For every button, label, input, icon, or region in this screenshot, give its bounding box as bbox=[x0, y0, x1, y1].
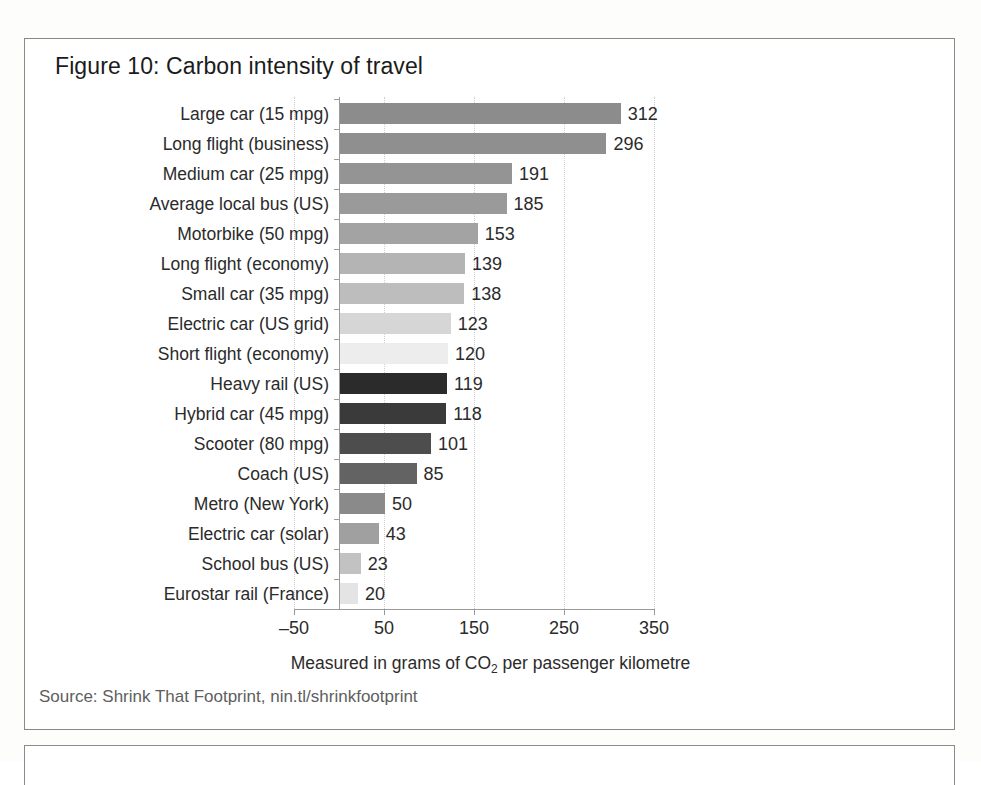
bar bbox=[340, 103, 621, 124]
bar bbox=[340, 193, 507, 214]
y-axis-tick bbox=[334, 129, 339, 130]
y-axis-tick bbox=[334, 429, 339, 430]
bar-row: Large car (15 mpg)312 bbox=[294, 99, 854, 129]
bar bbox=[340, 463, 417, 484]
bar bbox=[340, 403, 446, 424]
bar-row: Electric car (solar)43 bbox=[294, 519, 854, 549]
bar bbox=[340, 223, 478, 244]
bar-row: Short flight (economy)120 bbox=[294, 339, 854, 369]
bar-value-label: 101 bbox=[438, 429, 468, 459]
category-label: Hybrid car (45 mpg) bbox=[69, 399, 329, 429]
category-label: Electric car (US grid) bbox=[69, 309, 329, 339]
bar bbox=[340, 373, 447, 394]
bar-value-label: 123 bbox=[458, 309, 488, 339]
category-label: Eurostar rail (France) bbox=[69, 579, 329, 609]
x-axis-tick bbox=[384, 609, 385, 615]
bar bbox=[340, 493, 385, 514]
y-axis-tick bbox=[334, 189, 339, 190]
axis-caption-subscript: 2 bbox=[491, 662, 498, 676]
bar-value-label: 139 bbox=[472, 249, 502, 279]
bar-value-label: 23 bbox=[368, 549, 388, 579]
bar-row: Electric car (US grid)123 bbox=[294, 309, 854, 339]
x-axis-tick-label: 150 bbox=[459, 618, 489, 639]
bar-value-label: 296 bbox=[613, 129, 643, 159]
bar-row: Medium car (25 mpg)191 bbox=[294, 159, 854, 189]
bar-row: Long flight (economy)139 bbox=[294, 249, 854, 279]
bar-value-label: 20 bbox=[365, 579, 385, 609]
y-axis-tick bbox=[334, 519, 339, 520]
bar-row: Long flight (business)296 bbox=[294, 129, 854, 159]
x-axis-tick bbox=[294, 609, 295, 615]
category-label: Short flight (economy) bbox=[69, 339, 329, 369]
bar-value-label: 50 bbox=[392, 489, 412, 519]
y-axis-tick bbox=[334, 99, 339, 100]
bar-value-label: 43 bbox=[386, 519, 406, 549]
x-axis-tick-label: –50 bbox=[279, 618, 309, 639]
y-axis-tick bbox=[334, 159, 339, 160]
category-label: Small car (35 mpg) bbox=[69, 279, 329, 309]
bar-row: Coach (US)85 bbox=[294, 459, 854, 489]
bar bbox=[340, 583, 358, 604]
bar-value-label: 312 bbox=[628, 99, 658, 129]
bar-value-label: 191 bbox=[519, 159, 549, 189]
secondary-panel bbox=[24, 745, 955, 785]
y-axis-tick bbox=[334, 279, 339, 280]
category-label: Motorbike (50 mpg) bbox=[69, 219, 329, 249]
category-label: Electric car (solar) bbox=[69, 519, 329, 549]
plot-area: –5050150250350Large car (15 mpg)312Long … bbox=[294, 97, 884, 617]
x-axis-tick bbox=[564, 609, 565, 615]
bar-row: Heavy rail (US)119 bbox=[294, 369, 854, 399]
bar-value-label: 85 bbox=[424, 459, 444, 489]
bar-value-label: 118 bbox=[453, 399, 482, 429]
y-axis-tick bbox=[334, 309, 339, 310]
bar bbox=[340, 133, 606, 154]
bar-value-label: 138 bbox=[471, 279, 501, 309]
x-axis-tick bbox=[654, 609, 655, 615]
x-axis-tick bbox=[474, 609, 475, 615]
y-axis-tick bbox=[334, 219, 339, 220]
bar-value-label: 185 bbox=[514, 189, 544, 219]
category-label: Long flight (economy) bbox=[69, 249, 329, 279]
category-label: Scooter (80 mpg) bbox=[69, 429, 329, 459]
bar-value-label: 153 bbox=[485, 219, 515, 249]
figure-panel: Figure 10: Carbon intensity of travel –5… bbox=[24, 38, 955, 730]
bar-row: Eurostar rail (France)20 bbox=[294, 579, 854, 609]
axis-caption-prefix: Measured in grams of CO bbox=[291, 653, 491, 673]
bar bbox=[340, 523, 379, 544]
bar bbox=[340, 433, 431, 454]
bar-row: Motorbike (50 mpg)153 bbox=[294, 219, 854, 249]
bar-row: Metro (New York)50 bbox=[294, 489, 854, 519]
category-label: Medium car (25 mpg) bbox=[69, 159, 329, 189]
bar bbox=[340, 163, 512, 184]
bar-chart: –5050150250350Large car (15 mpg)312Long … bbox=[25, 97, 956, 677]
bar-value-label: 120 bbox=[455, 339, 485, 369]
category-label: Long flight (business) bbox=[69, 129, 329, 159]
y-axis-tick bbox=[334, 399, 339, 400]
category-label: Large car (15 mpg) bbox=[69, 99, 329, 129]
bar bbox=[340, 253, 465, 274]
bar-value-label: 119 bbox=[454, 369, 483, 399]
x-axis-caption: Measured in grams of CO2 per passenger k… bbox=[25, 653, 956, 674]
x-axis-tick-label: 250 bbox=[549, 618, 579, 639]
bar bbox=[340, 343, 448, 364]
x-axis-tick-label: 350 bbox=[639, 618, 669, 639]
source-note: Source: Shrink That Footprint, nin.tl/sh… bbox=[39, 687, 418, 707]
category-label: Coach (US) bbox=[69, 459, 329, 489]
y-axis-tick bbox=[334, 549, 339, 550]
bar-row: Small car (35 mpg)138 bbox=[294, 279, 854, 309]
bar bbox=[340, 313, 451, 334]
bar bbox=[340, 283, 464, 304]
y-axis-tick bbox=[334, 459, 339, 460]
y-axis-tick bbox=[334, 339, 339, 340]
category-label: Average local bus (US) bbox=[69, 189, 329, 219]
category-label: Heavy rail (US) bbox=[69, 369, 329, 399]
x-axis-tick-label: 50 bbox=[374, 618, 394, 639]
y-axis-tick bbox=[334, 369, 339, 370]
category-label: Metro (New York) bbox=[69, 489, 329, 519]
bar-row: Average local bus (US)185 bbox=[294, 189, 854, 219]
bar-row: Hybrid car (45 mpg)118 bbox=[294, 399, 854, 429]
y-axis-tick bbox=[334, 579, 339, 580]
bar-row: School bus (US)23 bbox=[294, 549, 854, 579]
axis-caption-suffix: per passenger kilometre bbox=[498, 653, 691, 673]
bar bbox=[340, 553, 361, 574]
